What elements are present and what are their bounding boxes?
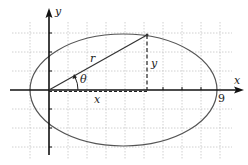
y-axis-label: y — [54, 5, 62, 18]
y-axis — [46, 8, 53, 155]
x-axis-label: x — [234, 74, 241, 87]
vertical-leg-label: y — [150, 57, 158, 70]
radius-label: r — [90, 52, 96, 65]
horizontal-leg-label: x — [94, 93, 101, 106]
point-on-ellipse — [146, 34, 149, 37]
angle-label: θ — [80, 73, 87, 86]
x-axis — [10, 87, 244, 94]
x-intercept-label: 9 — [218, 92, 225, 105]
radius-line — [49, 35, 147, 90]
ellipse-diagram: y x r y x θ 9 — [0, 0, 248, 165]
angle-arc — [75, 77, 78, 90]
